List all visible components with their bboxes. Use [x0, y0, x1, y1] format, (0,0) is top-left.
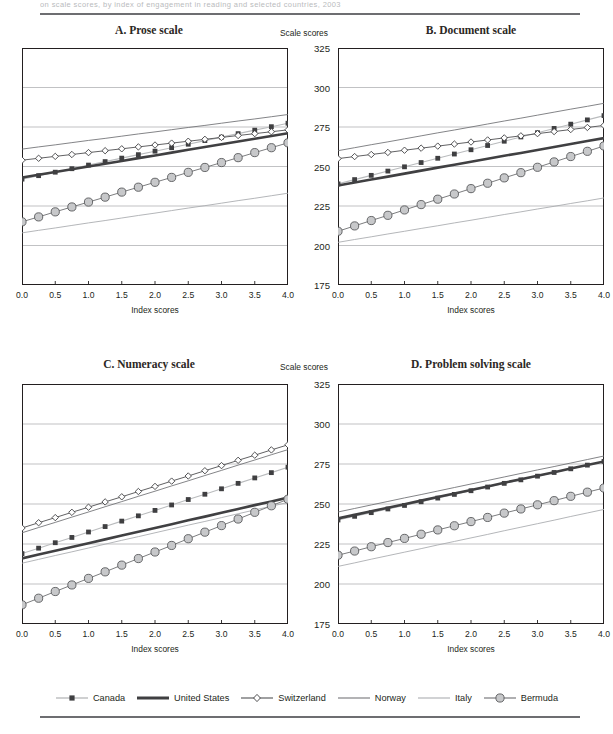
- x-tick-label: 1.0: [399, 290, 411, 300]
- bottom-rule: [40, 716, 580, 718]
- x-tick-label: 1.5: [116, 629, 128, 639]
- x-tick-label: 0.0: [332, 629, 344, 639]
- plot-area: [338, 48, 604, 285]
- legend-label: Italy: [455, 693, 472, 703]
- legend-item-bermuda[interactable]: Bermuda: [483, 692, 558, 704]
- x-tick-label: 1.0: [83, 290, 95, 300]
- legend-label: Switzerland: [278, 693, 326, 703]
- series-canada: [22, 465, 288, 556]
- panel-document-scale: B. Document scale 0.00.51.01.52.02.53.03…: [330, 24, 612, 334]
- series-bermuda: [338, 484, 604, 559]
- figure-container: on scale scores, by index of engagement …: [0, 0, 613, 734]
- y-axis-title: Scale scores: [272, 362, 336, 372]
- legend-item-canada[interactable]: Canada: [55, 692, 125, 704]
- y-tick-label: 225: [314, 539, 330, 550]
- series-bermuda: [338, 142, 604, 236]
- y-tick-label: 325: [314, 43, 330, 54]
- x-tick-label: 3.0: [216, 629, 228, 639]
- x-tick-labels: 0.00.51.01.52.02.53.03.54.0: [22, 290, 288, 302]
- x-tick-labels: 0.00.51.01.52.02.53.03.54.0: [338, 629, 604, 641]
- y-tick-label: 225: [314, 201, 330, 212]
- x-tick-label: 3.5: [565, 629, 577, 639]
- legend-key-line-diamond-marker: [240, 692, 274, 704]
- x-tick-label: 2.0: [465, 290, 477, 300]
- x-tick-label: 1.5: [432, 290, 444, 300]
- legend-key-line-square-marker: [55, 692, 89, 704]
- legend-label: Bermuda: [521, 693, 558, 703]
- x-tick-label: 1.5: [116, 290, 128, 300]
- y-tick-label: 250: [314, 499, 330, 510]
- legend-label: Canada: [93, 693, 125, 703]
- series-italy: [338, 198, 604, 242]
- legend-label: United States: [174, 693, 229, 703]
- chart-legend: CanadaUnited StatesSwitzerlandNorwayItal…: [0, 688, 613, 708]
- y-axis-bottom: Scale scores 325300275250225200175: [272, 362, 336, 654]
- x-tick-label: 3.5: [565, 290, 577, 300]
- x-tick-label: 1.5: [432, 629, 444, 639]
- series-norway: [22, 450, 288, 533]
- series-canada: [22, 121, 288, 182]
- y-tick-label: 275: [314, 459, 330, 470]
- x-tick-label: 2.5: [498, 629, 510, 639]
- x-axis-title: Index scores: [22, 644, 288, 654]
- legend-key-line-circle-marker: [483, 692, 517, 704]
- panel-problem-solving-scale: D. Problem solving scale 0.00.51.01.52.0…: [330, 358, 612, 678]
- legend-item-united-states[interactable]: United States: [136, 692, 229, 704]
- plot-svg: [338, 48, 604, 285]
- x-tick-label: 0.5: [365, 290, 377, 300]
- cut-off-caption: on scale scores, by index of engagement …: [40, 0, 580, 9]
- legend-item-norway[interactable]: Norway: [337, 692, 406, 704]
- y-axis-top: Scale scores 325300275250225200175: [272, 28, 336, 318]
- panel-title: C. Numeracy scale: [8, 358, 290, 370]
- y-axis-title: Scale scores: [272, 28, 336, 38]
- x-tick-label: 3.5: [249, 290, 261, 300]
- plot-svg: [22, 48, 288, 285]
- legend-label: Norway: [375, 693, 406, 703]
- x-tick-labels: 0.00.51.01.52.02.53.03.54.0: [22, 629, 288, 641]
- y-tick-label: 200: [314, 579, 330, 590]
- x-tick-label: 0.5: [49, 290, 61, 300]
- y-tick-label: 300: [314, 419, 330, 430]
- x-tick-labels: 0.00.51.01.52.02.53.03.54.0: [338, 290, 604, 302]
- x-tick-label: 1.0: [83, 629, 95, 639]
- x-tick-label: 0.0: [332, 290, 344, 300]
- series-united-states: [338, 461, 604, 518]
- legend-key-thin-line: [417, 692, 451, 704]
- panel-numeracy-scale: C. Numeracy scale 0.00.51.01.52.02.53.03…: [8, 358, 290, 678]
- x-tick-label: 1.0: [399, 629, 411, 639]
- x-tick-label: 0.0: [16, 290, 28, 300]
- plot-svg: [22, 384, 288, 624]
- x-tick-label: 0.5: [365, 629, 377, 639]
- x-tick-label: 3.0: [216, 290, 228, 300]
- legend-item-switzerland[interactable]: Switzerland: [240, 692, 326, 704]
- x-tick-label: 4.0: [598, 629, 610, 639]
- panel-prose-scale: A. Prose scale 0.00.51.01.52.02.53.03.54…: [8, 24, 290, 334]
- series-canada: [338, 113, 604, 186]
- plot-area: [22, 48, 288, 285]
- x-tick-label: 0.0: [16, 629, 28, 639]
- y-tick-label: 250: [314, 161, 330, 172]
- panel-title: D. Problem solving scale: [330, 358, 612, 370]
- plot-svg: [338, 384, 604, 624]
- x-tick-label: 2.0: [149, 629, 161, 639]
- plot-area: [22, 384, 288, 624]
- x-tick-label: 2.5: [182, 629, 194, 639]
- series-italy: [22, 193, 288, 233]
- y-tick-label: 175: [314, 619, 330, 630]
- y-tick-label: 175: [314, 280, 330, 291]
- x-axis-title: Index scores: [338, 305, 604, 315]
- top-rule: [40, 13, 580, 15]
- x-tick-label: 2.5: [182, 290, 194, 300]
- x-tick-label: 2.0: [149, 290, 161, 300]
- plot-area: [338, 384, 604, 624]
- legend-item-italy[interactable]: Italy: [417, 692, 472, 704]
- x-axis-title: Index scores: [22, 305, 288, 315]
- panel-title: A. Prose scale: [8, 24, 290, 36]
- x-tick-label: 3.0: [532, 629, 544, 639]
- series-switzerland: [22, 442, 288, 532]
- series-switzerland: [338, 122, 604, 162]
- y-tick-label: 300: [314, 82, 330, 93]
- x-tick-label: 3.5: [249, 629, 261, 639]
- x-tick-label: 2.0: [465, 629, 477, 639]
- x-tick-label: 0.5: [49, 629, 61, 639]
